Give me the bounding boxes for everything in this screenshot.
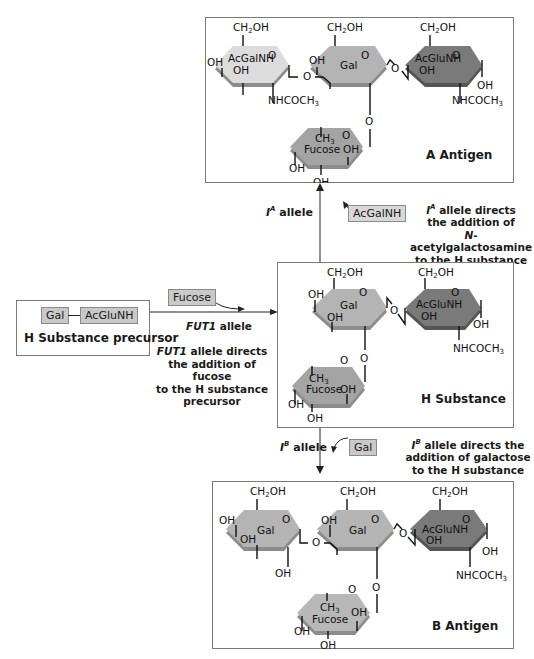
a-antigen-title: A Antigen — [426, 148, 492, 162]
svg-text:O: O — [361, 49, 369, 61]
precursor-bond — [68, 315, 80, 316]
svg-text:AcGalNH: AcGalNH — [228, 52, 274, 64]
svg-text:CH2OH: CH2OH — [250, 485, 286, 499]
ib-note: IB allele directs the addition of galact… — [403, 436, 533, 476]
svg-text:Fucose: Fucose — [312, 613, 348, 625]
svg-text:OH: OH — [482, 545, 498, 557]
svg-text:Gal: Gal — [340, 59, 358, 71]
precursor-acglunh-chip: AcGluNH — [80, 307, 138, 324]
svg-text:CH2OH: CH2OH — [233, 21, 269, 35]
svg-text:OH: OH — [321, 514, 337, 526]
svg-text:OH: OH — [477, 79, 493, 91]
svg-text:O: O — [399, 527, 407, 539]
svg-text:Fucose: Fucose — [304, 143, 340, 155]
svg-text:Gal: Gal — [340, 299, 358, 311]
svg-text:CH2OH: CH2OH — [420, 21, 456, 35]
svg-text:Gal: Gal — [349, 524, 367, 536]
svg-text:NHCOCH3: NHCOCH3 — [268, 94, 319, 108]
svg-text:O: O — [348, 583, 356, 595]
svg-text:OH: OH — [289, 162, 305, 174]
svg-text:O: O — [312, 536, 320, 548]
svg-text:OH: OH — [320, 639, 336, 649]
svg-text:O: O — [342, 129, 350, 141]
svg-text:NHCOCH3: NHCOCH3 — [452, 94, 503, 108]
svg-text:OH: OH — [340, 383, 356, 395]
svg-text:O: O — [303, 70, 311, 82]
fut1-allele-label: FUT1 allele — [186, 320, 252, 332]
svg-text:O: O — [359, 286, 367, 298]
svg-text:CH2OH: CH2OH — [432, 485, 468, 499]
svg-text:NHCOCH3: NHCOCH3 — [453, 342, 504, 356]
svg-text:OH: OH — [275, 567, 291, 579]
svg-text:O: O — [372, 581, 380, 593]
ib-allele-label: IB allele — [280, 440, 327, 454]
svg-text:Fucose: Fucose — [306, 383, 342, 395]
svg-text:OH: OH — [473, 318, 489, 330]
svg-text:OH: OH — [308, 288, 324, 300]
svg-text:NHCOCH3: NHCOCH3 — [456, 569, 507, 583]
fut1-note: FUT1 allele directs the addition of fuco… — [150, 345, 274, 408]
svg-text:O: O — [371, 513, 379, 525]
svg-text:O: O — [390, 304, 398, 316]
svg-text:O: O — [451, 286, 459, 298]
svg-text:OH: OH — [307, 412, 323, 424]
svg-text:CH2OH: CH2OH — [340, 485, 376, 499]
svg-text:OH: OH — [309, 54, 325, 66]
svg-text:OH: OH — [419, 64, 435, 76]
svg-text:OH: OH — [233, 64, 249, 76]
ia-note: IA allele directs the addition of N-acet… — [408, 201, 534, 266]
svg-text:O: O — [365, 115, 373, 127]
svg-text:Gal: Gal — [257, 524, 275, 536]
svg-text:OH: OH — [343, 143, 359, 155]
svg-text:OH: OH — [327, 311, 343, 323]
arrow-to-a-antigen — [316, 183, 376, 263]
svg-text:OH: OH — [421, 310, 437, 322]
svg-text:OH: OH — [313, 176, 329, 183]
svg-text:CH2OH: CH2OH — [418, 266, 454, 280]
svg-text:OH: OH — [219, 514, 235, 526]
svg-text:O: O — [340, 354, 348, 366]
svg-text:AcGluNH: AcGluNH — [415, 52, 461, 64]
gal-chip: Gal — [349, 439, 377, 456]
fucose-chip: Fucose — [168, 289, 216, 306]
svg-text:CH2OH: CH2OH — [327, 21, 363, 35]
svg-text:AcGluNH: AcGluNH — [416, 298, 462, 310]
svg-text:CH2OH: CH2OH — [327, 266, 363, 280]
ia-allele-label: IA allele — [266, 205, 313, 219]
svg-text:OH: OH — [294, 625, 310, 637]
svg-text:O: O — [391, 62, 399, 74]
b-antigen-title: B Antigen — [432, 619, 498, 633]
acgalnh-chip: AcGalNH — [348, 205, 406, 222]
svg-text:OH: OH — [351, 606, 367, 618]
h-substance-title: H Substance — [421, 392, 506, 406]
svg-text:OH: OH — [207, 56, 223, 68]
svg-text:OH: OH — [240, 533, 256, 545]
svg-text:OH: OH — [288, 398, 304, 410]
precursor-gal-chip: Gal — [41, 307, 69, 324]
svg-text:OH: OH — [426, 534, 442, 546]
svg-text:O: O — [282, 513, 290, 525]
svg-text:O: O — [360, 352, 368, 364]
